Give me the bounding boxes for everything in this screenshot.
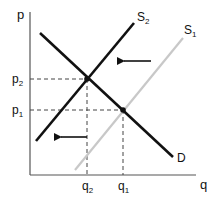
price-label-p2: p2	[12, 72, 24, 88]
price-label-p1: p1	[12, 103, 24, 119]
supply-curve-s2	[36, 23, 134, 141]
x-axis-label: q	[200, 177, 207, 192]
y-axis-label: p	[17, 7, 24, 22]
curve-label-s2: S2	[137, 10, 150, 26]
equilibrium-point-e1	[120, 107, 126, 113]
demand-curve	[40, 33, 173, 157]
diagram-canvas: p q p2 p1 q2 q1 S2 S1 D	[0, 0, 216, 203]
supply-demand-diagram: p q p2 p1 q2 q1 S2 S1 D	[0, 0, 216, 203]
curve-label-s1: S1	[184, 23, 197, 39]
curve-label-d: D	[177, 151, 186, 165]
quantity-label-q2: q2	[82, 179, 94, 195]
equilibrium-point-e2	[84, 76, 90, 82]
quantity-label-q1: q1	[118, 179, 130, 195]
